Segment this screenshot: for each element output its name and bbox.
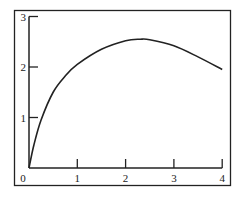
line-chart: 01234123 <box>0 0 243 203</box>
x-tick-label: 3 <box>171 172 177 184</box>
y-tick-label: 1 <box>21 112 27 124</box>
x-tick-label: 2 <box>123 172 129 184</box>
x-tick-label: 4 <box>219 172 225 184</box>
data-curve <box>29 39 222 168</box>
x-tick-label: 1 <box>75 172 81 184</box>
x-tick-label: 0 <box>20 172 26 184</box>
y-tick-label: 3 <box>21 11 27 23</box>
plot-frame <box>15 11 231 186</box>
y-tick-label: 2 <box>21 61 27 73</box>
